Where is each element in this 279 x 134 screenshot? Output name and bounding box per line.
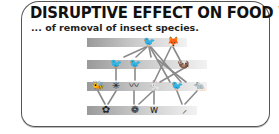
grass-icon: ᴡ: [147, 105, 161, 115]
bird-of-prey-icon: 🐦: [142, 37, 156, 47]
bird-icon: 🐦: [109, 59, 123, 69]
bird-icon: 🐦: [170, 81, 184, 91]
insect-icon: ✳: [109, 81, 123, 91]
bee-icon: 🐝: [91, 81, 105, 91]
rabbit-icon: 🐇: [147, 81, 161, 91]
rat-icon: 🐀: [192, 81, 206, 91]
bird-icon: 🐦: [128, 59, 142, 69]
fox-icon: 🦊: [166, 37, 180, 47]
bush-icon: ❁: [128, 105, 142, 115]
otter-icon: 🦦: [176, 59, 190, 69]
flower-icon: ✿: [99, 105, 113, 115]
plant-stem-icon: ⸝: [177, 105, 191, 115]
caterpillar-icon: 〰: [127, 81, 141, 91]
